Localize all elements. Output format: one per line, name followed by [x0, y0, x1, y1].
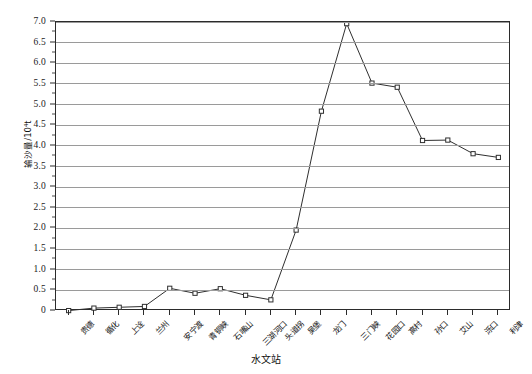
- x-tick-mark: [93, 310, 94, 315]
- y-tick-label: 4.0: [34, 140, 46, 150]
- x-tick-label: 兰州: [153, 318, 172, 337]
- gridline: [56, 42, 509, 43]
- data-point-marker: [193, 291, 197, 295]
- y-tick-label: 0.5: [34, 284, 46, 294]
- x-tick-label: 孙口: [431, 318, 450, 337]
- y-tick-label: 2.5: [34, 202, 46, 212]
- x-tick-label: 吴堡: [305, 318, 324, 337]
- gridline: [56, 290, 509, 291]
- x-tick-mark: [472, 310, 473, 315]
- x-tick-mark: [346, 310, 347, 315]
- data-point-marker: [395, 85, 399, 89]
- gridline: [56, 249, 509, 250]
- x-tick-mark: [194, 310, 195, 315]
- y-tick-label: 4.5: [34, 119, 46, 129]
- gridline: [56, 63, 509, 64]
- gridline: [56, 187, 509, 188]
- data-point-marker: [319, 109, 323, 113]
- x-tick-mark: [118, 310, 119, 315]
- data-point-marker: [446, 138, 450, 142]
- data-point-marker: [471, 152, 475, 156]
- x-tick-mark: [270, 310, 271, 315]
- gridline: [56, 166, 509, 167]
- data-point-marker: [117, 305, 121, 309]
- x-tick-label: 三门峡: [358, 318, 382, 342]
- gridline: [56, 83, 509, 84]
- plot-area: [55, 21, 510, 310]
- x-tick-mark: [371, 310, 372, 315]
- data-point-marker: [142, 304, 146, 308]
- gridline: [56, 228, 509, 229]
- x-tick-mark: [68, 310, 69, 315]
- x-tick-label: 花园口: [383, 318, 407, 342]
- y-tick-label: 3.0: [34, 181, 46, 191]
- data-point-marker: [243, 293, 247, 297]
- x-tick-mark: [245, 310, 246, 315]
- y-tick-label: 6.0: [34, 57, 46, 67]
- x-tick-mark: [320, 310, 321, 315]
- gridline: [56, 125, 509, 126]
- x-tick-mark: [143, 310, 144, 315]
- x-tick-label: 利津: [507, 318, 526, 337]
- x-tick-label: 艾山: [456, 318, 475, 337]
- x-tick-label: 贵德: [77, 318, 96, 337]
- x-tick-label: 泺口: [482, 318, 501, 337]
- x-tick-mark: [422, 310, 423, 315]
- data-point-marker: [420, 138, 424, 142]
- chart-page: 输沙量/10⁴t 7.06.56.05.55.04.54.03.53.02.52…: [0, 0, 532, 374]
- gridline: [56, 104, 509, 105]
- x-tick-label: 青铜峡: [206, 318, 230, 342]
- y-tick-label: 1.5: [34, 243, 46, 253]
- y-tick-label: 0: [41, 305, 46, 315]
- x-tick-mark: [169, 310, 170, 315]
- x-tick-label: 龙门: [330, 318, 349, 337]
- series-polyline: [69, 24, 499, 311]
- x-tick-label: 高村: [406, 318, 425, 337]
- y-tick-label: 1.0: [34, 264, 46, 274]
- x-tick-label: 安宁渡: [181, 318, 205, 342]
- x-tick-label: 石嘴山: [231, 318, 255, 342]
- gridline: [56, 207, 509, 208]
- gridline: [56, 22, 509, 23]
- data-point-marker: [269, 298, 273, 302]
- y-tick-label: 6.5: [34, 37, 46, 47]
- y-tick-label: 2.0: [34, 222, 46, 232]
- y-tick-label: 5.0: [34, 99, 46, 109]
- y-tick-label: 3.5: [34, 161, 46, 171]
- x-tick-mark: [219, 310, 220, 315]
- x-tick-mark: [447, 310, 448, 315]
- x-tick-label: 上诠: [128, 318, 147, 337]
- gridline: [56, 145, 509, 146]
- x-axis-title: 水文站: [0, 351, 532, 366]
- y-tick-label: 5.5: [34, 78, 46, 88]
- y-axis: 7.06.56.05.55.04.54.03.53.02.52.01.51.00…: [0, 21, 55, 310]
- x-tick-mark: [497, 310, 498, 315]
- x-tick-label: 循化: [102, 318, 121, 337]
- y-tick-label: 7.0: [34, 16, 46, 26]
- data-point-marker: [496, 155, 500, 159]
- gridline: [56, 269, 509, 270]
- x-tick-mark: [295, 310, 296, 315]
- x-tick-mark: [396, 310, 397, 315]
